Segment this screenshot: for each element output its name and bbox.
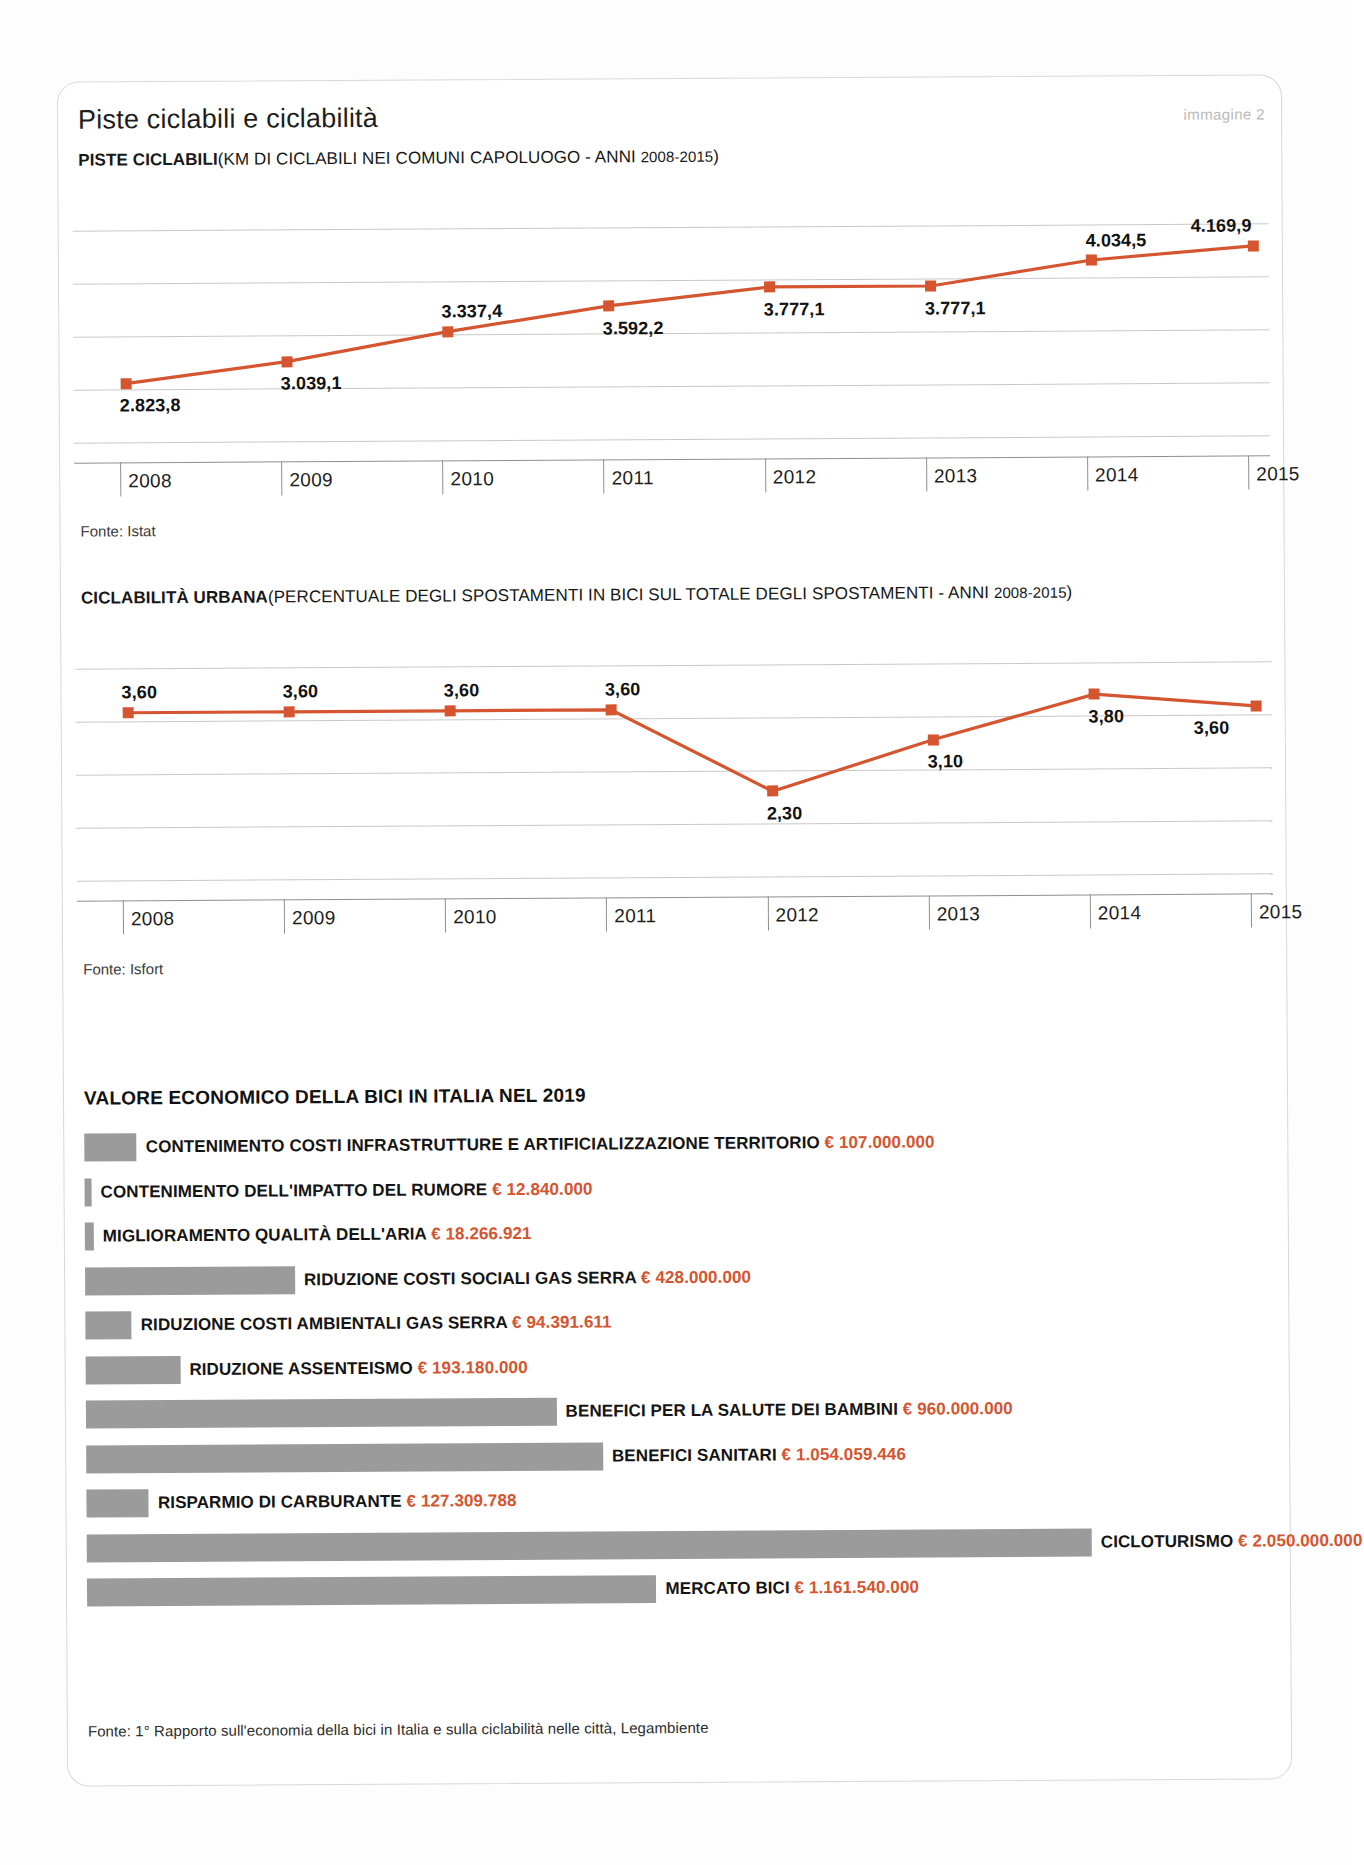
bar-label: CICLOTURISMO € 2.050.000.000 [1101,1530,1363,1552]
bar-row: MIGLIORAMENTO QUALITÀ DELL'ARIA € 18.266… [85,1212,1255,1253]
bar-fill [87,1528,1092,1562]
data-point-label: 3,60 [283,682,319,703]
card-inner: Piste ciclabili e ciclabilità immagine 2… [58,75,1293,1787]
section2-paren-close: ) [1066,583,1072,602]
data-point-label: 4.169,9 [1191,216,1252,237]
bar-category-name: CONTENIMENTO COSTI INFRASTRUTTURE E ARTI… [146,1133,825,1156]
data-point-marker [444,705,455,716]
data-point-label: 3.777,1 [925,298,986,319]
bar-category-name: BENEFICI PER LA SALUTE DEI BAMBINI [566,1400,903,1421]
chart-x-label: 2014 [1095,464,1139,486]
bar-value: € 12.840.000 [492,1179,593,1199]
section2-source: Fonte: Isfort [83,960,163,977]
data-point-label: 3,80 [1088,706,1124,727]
bar-label: MIGLIORAMENTO QUALITÀ DELL'ARIA € 18.266… [103,1224,532,1247]
bar-row: MERCATO BICI € 1.161.540.000 [87,1568,1257,1609]
bar-category-name: RIDUZIONE ASSENTEISMO [189,1358,417,1378]
bars-title: VALORE ECONOMICO DELLA BICI IN ITALIA NE… [84,1085,586,1110]
chart-x-label: 2015 [1259,901,1303,923]
bars-source: Fonte: 1° Rapporto sull'economia della b… [88,1719,709,1740]
data-point-marker [606,704,617,715]
bar-label: BENEFICI PER LA SALUTE DEI BAMBINI € 960… [566,1399,1013,1422]
chart-x-tick [926,457,927,491]
bar-list: CONTENIMENTO COSTI INFRASTRUTTURE E ARTI… [58,75,1283,82]
data-point-label: 3.039,1 [281,373,342,394]
bar-row: CICLOTURISMO € 2.050.000.000 [87,1524,1257,1565]
bar-value: € 107.000.000 [825,1132,935,1152]
page-title: Piste ciclabili e ciclabilità [78,103,378,136]
bar-value: € 18.266.921 [431,1224,532,1244]
chart-x-label: 2008 [131,908,175,930]
section1-paren-close: ) [713,147,719,166]
data-point-marker [1086,254,1097,265]
chart-x-label: 2012 [775,904,819,926]
bar-fill [86,1442,603,1473]
chart-x-label: 2009 [289,469,333,491]
data-point-label: 3,60 [605,680,641,701]
chart-x-label: 2013 [934,465,978,487]
data-point-label: 3,60 [444,681,480,702]
bar-fill [84,1133,137,1161]
chart-line-path [75,631,1273,938]
data-point-marker [1250,700,1261,711]
chart-x-tick [1251,893,1252,927]
data-point-label: 3,60 [121,683,157,704]
chart-x-tick [123,900,124,934]
data-point-label: 3,60 [1194,718,1230,739]
data-point-marker [281,356,292,367]
data-point-marker [928,734,939,745]
chart-x-label: 2008 [128,470,172,492]
bar-fill [85,1311,131,1339]
bar-row: RIDUZIONE COSTI AMBIENTALI GAS SERRA € 9… [85,1301,1255,1342]
chart-x-tick [604,459,605,493]
chart-x-label: 2010 [453,906,497,928]
bar-fill [85,1178,92,1206]
section2-label: CICLABILITÀ URBANA [81,587,268,607]
infographic-card: Piste ciclabili e ciclabilità immagine 2… [57,74,1292,1786]
bar-value: € 1.054.059.446 [781,1444,906,1464]
bar-category-name: MIGLIORAMENTO QUALITÀ DELL'ARIA [103,1224,431,1245]
data-point-label: 2.823,8 [120,395,181,416]
section2-years: 2008-2015 [994,584,1067,601]
chart-x-tick [765,458,766,492]
data-point-marker [925,280,936,291]
bar-label: RIDUZIONE COSTI AMBIENTALI GAS SERRA € 9… [141,1312,612,1335]
bar-value: € 127.309.788 [406,1491,516,1511]
data-point-marker [1089,689,1100,700]
chart-x-tick [284,899,285,933]
bar-label: RISPARMIO DI CARBURANTE € 127.309.788 [158,1491,517,1513]
data-point-label: 3,10 [928,751,964,772]
chart-x-label: 2010 [450,468,494,490]
bar-category-name: CONTENIMENTO DELL'IMPATTO DEL RUMORE [101,1180,493,1201]
section1-label: PISTE CICLABILI [78,150,218,170]
data-point-marker [442,326,453,337]
bar-category-name: RISPARMIO DI CARBURANTE [158,1492,407,1513]
data-point-marker [767,786,778,797]
bar-row: BENEFICI PER LA SALUTE DEI BAMBINI € 960… [86,1390,1256,1431]
chart-x-label: 2009 [292,907,336,929]
data-point-marker [120,378,131,389]
section2-paren-open: (PERCENTUALE DEGLI SPOSTAMENTI IN BICI S… [268,583,994,606]
chart-x-tick [445,898,446,932]
bar-fill [85,1223,94,1251]
data-point-label: 4.034,5 [1086,230,1147,251]
chart-piste-ciclabili: 2.823,83.039,13.337,43.592,23.777,13.777… [73,193,1271,500]
chart-x-tick [442,460,443,494]
bar-fill [85,1266,295,1295]
bar-value: € 960.000.000 [903,1399,1013,1419]
section1-source: Fonte: Istat [80,522,155,539]
chart-x-tick [120,462,121,496]
chart-x-label: 2013 [937,903,981,925]
data-point-marker [283,706,294,717]
bar-label: BENEFICI SANITARI € 1.054.059.446 [612,1444,906,1466]
chart-x-label: 2015 [1256,463,1300,485]
chart-x-label: 2011 [614,905,656,927]
image-tag: immagine 2 [1183,105,1265,122]
bar-label: RIDUZIONE ASSENTEISMO € 193.180.000 [189,1357,527,1379]
chart-x-label: 2012 [773,466,817,488]
section2-subtitle: CICLABILITÀ URBANA(PERCENTUALE DEGLI SPO… [81,583,1072,609]
bar-value: € 94.391.611 [512,1312,612,1332]
chart-x-tick [606,897,607,931]
bar-row: CONTENIMENTO COSTI INFRASTRUTTURE E ARTI… [84,1123,1254,1164]
data-point-label: 3.777,1 [764,299,825,320]
